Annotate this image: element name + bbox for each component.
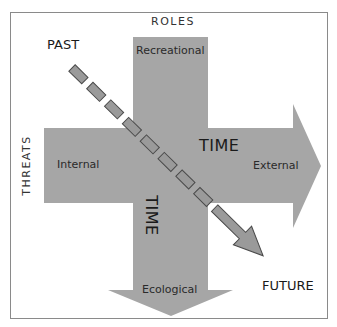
internal-label: Internal bbox=[57, 158, 99, 171]
external-label: External bbox=[253, 159, 299, 172]
past-label: PAST bbox=[47, 37, 79, 52]
vertical-time-label: TIME bbox=[142, 195, 161, 235]
future-label: FUTURE bbox=[262, 278, 314, 293]
recreational-label: Recreational bbox=[136, 44, 205, 57]
roles-axis-title: ROLES bbox=[151, 15, 195, 28]
threats-axis-title: THREATS bbox=[20, 135, 33, 195]
horizontal-time-label: TIME bbox=[199, 136, 239, 155]
ecological-label: Ecological bbox=[142, 283, 197, 296]
